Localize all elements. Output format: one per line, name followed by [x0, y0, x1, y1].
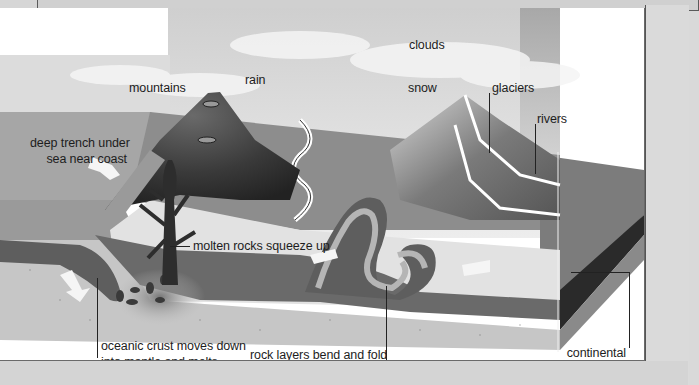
- label-snow: snow: [408, 81, 437, 96]
- label-rivers: rivers: [537, 112, 567, 127]
- continental-leader-horizontal: [571, 272, 629, 273]
- label-clouds: clouds: [409, 38, 445, 53]
- label-rain: rain: [245, 73, 265, 88]
- label-trench-line1: deep trench under: [30, 136, 127, 151]
- label-trench-line2: sea near coast: [30, 152, 127, 167]
- rivers-leader-line: [535, 124, 536, 174]
- continental-leader-vertical: [629, 272, 630, 348]
- diagram-panel: clouds mountains rain snow glaciers rive…: [0, 8, 645, 361]
- bottom-margin-strip: [0, 361, 688, 385]
- label-glaciers: glaciers: [492, 81, 534, 96]
- rock-layers-leader-line: [386, 286, 387, 361]
- label-continental-line1: continental: [540, 346, 626, 361]
- label-mountains: mountains: [129, 81, 186, 96]
- molten-leader-line: [170, 246, 190, 247]
- label-rock-layers: rock layers bend and fold: [250, 348, 382, 361]
- right-margin-strip: [645, 5, 689, 385]
- oceanic-leader-line: [97, 278, 98, 358]
- glaciers-leader-line: [489, 93, 490, 153]
- label-molten-rocks: molten rocks squeeze up: [193, 239, 330, 254]
- label-oceanic-line2: into mantle and melts: [101, 355, 218, 361]
- label-oceanic-line1: oceanic crust moves down: [101, 339, 246, 354]
